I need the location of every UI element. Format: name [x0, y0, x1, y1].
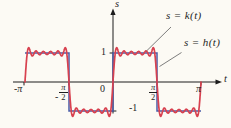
- fraction-numerator: π: [150, 83, 156, 92]
- y-axis-label: s: [115, 0, 120, 10]
- pi-over-2-fraction: π2: [59, 83, 67, 102]
- fourier-square-wave-figure: s t 1 -1 -π -π2 0 π2 π s = k(t) s = h(t): [0, 0, 231, 128]
- fraction-denominator: 2: [149, 92, 157, 102]
- x-tick-label-pi: π: [196, 84, 201, 94]
- fraction-denominator: 2: [59, 92, 67, 102]
- x-tick-label-neg-pi: -π: [14, 84, 22, 94]
- y-tick-label-neg-1: -1: [129, 103, 137, 113]
- h-label-leader-line: [160, 53, 182, 67]
- k-label-leader-line: [147, 27, 172, 51]
- x-tick-label-neg-pi-over-2: -π2: [55, 83, 68, 102]
- axes: [13, 13, 218, 114]
- minus-sign: -: [55, 91, 58, 102]
- k-curve-label: s = k(t): [166, 10, 202, 21]
- h-curve-label: s = h(t): [184, 37, 220, 48]
- x-tick-label-0: 0: [100, 84, 105, 94]
- leader-lines: [147, 27, 182, 67]
- fraction-numerator: π: [60, 83, 66, 92]
- x-axis-arrow: [216, 79, 223, 84]
- y-tick-label-1: 1: [94, 47, 106, 57]
- x-axis-label: t: [224, 74, 227, 85]
- x-tick-label-pi-over-2: π2: [149, 83, 157, 102]
- pi-over-2-fraction: π2: [149, 83, 157, 102]
